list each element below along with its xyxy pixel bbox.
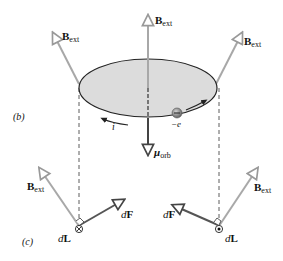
current-arrow xyxy=(103,119,128,125)
b-ext-arrow-left xyxy=(55,37,79,84)
b-ext-label-right: Bext xyxy=(244,36,261,49)
c-b-ext-label-left: Bext xyxy=(27,181,44,194)
c-b-ext-arrow-right xyxy=(219,172,255,226)
c-df-label-left: dF xyxy=(121,209,133,220)
c-df-label-right: dF xyxy=(163,209,175,220)
c-df-arrow-left xyxy=(80,202,120,225)
electron-label: −e xyxy=(171,120,181,129)
b-ext-arrow-right xyxy=(216,37,240,84)
c-b-ext-arrow-left xyxy=(42,172,79,226)
c-df-arrow-right xyxy=(177,207,218,225)
dl-into-page-icon xyxy=(75,225,82,232)
diagram-canvas xyxy=(0,0,283,261)
c-b-ext-label-right: Bext xyxy=(254,182,271,195)
current-label: i xyxy=(112,122,115,132)
panel-label-b: (b) xyxy=(13,112,25,122)
c-dl-label-right: dL xyxy=(225,233,238,244)
b-ext-label-left: Bext xyxy=(62,31,79,44)
dl-out-of-page-icon xyxy=(215,225,222,232)
c-dl-label-left: dL xyxy=(58,233,71,244)
panel-label-c: (c) xyxy=(22,237,33,247)
b-ext-label-center: Bext xyxy=(155,15,172,28)
mu-orb-label: μorb xyxy=(154,147,171,160)
